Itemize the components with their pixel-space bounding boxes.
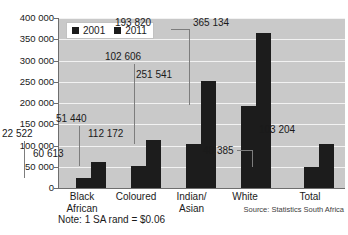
leader-line: [24, 141, 25, 178]
legend-label-2001: 2001: [83, 25, 105, 36]
x-axis: [58, 188, 345, 189]
chart-source: Source: Statistics South Africa: [244, 205, 344, 214]
data-label-2011-coloured: 112 172: [88, 128, 123, 139]
bar-chart: 400 000 350 000 300 000 250 000 200 000 …: [0, 0, 348, 235]
data-label-2001-total: 48 385: [203, 145, 234, 156]
data-label-2001-black-african: 22 522: [2, 128, 33, 139]
y-tick-label: 250 000: [20, 77, 54, 87]
bar-2011-white: [256, 33, 271, 188]
bar-2001-coloured: [131, 166, 146, 188]
bar-2001-indian-asian: [186, 144, 201, 188]
y-tick-label: 400 000: [20, 13, 54, 23]
y-tick: [54, 124, 59, 125]
data-label-2001-indian-asian: 102 606: [105, 51, 141, 62]
leader-line: [171, 29, 190, 30]
leader-line: [189, 30, 190, 105]
y-tick: [54, 82, 59, 83]
y-tick: [54, 188, 59, 189]
bar-2001-white: [241, 106, 256, 188]
y-tick: [54, 61, 59, 62]
bar-2011-black-african: [91, 162, 106, 188]
y-tick-label: 50 000: [25, 162, 54, 172]
y-tick-label: 350 000: [20, 34, 54, 44]
legend-item-2001: 2001: [72, 25, 105, 36]
category-label-white: White: [219, 191, 271, 203]
bar-2011-indian-asian: [201, 81, 216, 188]
y-tick-label: 0: [49, 183, 54, 193]
legend-swatch-icon: [72, 27, 79, 34]
category-label-total: Total: [287, 191, 333, 203]
category-label-coloured: Coloured: [106, 191, 166, 203]
data-label-2011-total: 103 204: [259, 124, 295, 135]
data-label-2001-white: 193 820: [115, 17, 151, 28]
y-tick-label: 200 000: [20, 98, 54, 108]
leader-line: [252, 150, 253, 167]
data-label-2011-white: 365 134: [193, 17, 229, 28]
chart-note: Note: 1 SA rand = $0.06: [58, 214, 165, 226]
legend-swatch-icon: [114, 27, 121, 34]
category-label-indian-asian: Indian/ Asian: [163, 191, 220, 214]
data-label-2011-black-african: 60 613: [33, 148, 64, 159]
leader-line: [79, 126, 80, 166]
category-label-black-african: Black African: [56, 191, 108, 214]
y-tick: [54, 103, 59, 104]
bars-layer: [59, 18, 345, 188]
data-label-2001-coloured: 51 440: [56, 113, 87, 124]
bar-2011-coloured: [146, 140, 161, 188]
data-label-2011-indian-asian: 251 541: [136, 69, 172, 80]
y-tick: [54, 39, 59, 40]
y-tick: [54, 146, 59, 147]
bar-2001-black-african: [76, 178, 91, 188]
y-tick: [54, 167, 59, 168]
leader-line: [237, 150, 253, 151]
y-tick-label: 300 000: [20, 56, 54, 66]
y-tick: [54, 18, 59, 19]
bar-2011-total: [319, 144, 334, 188]
leader-line: [134, 64, 135, 144]
bar-2001-total: [304, 167, 319, 188]
